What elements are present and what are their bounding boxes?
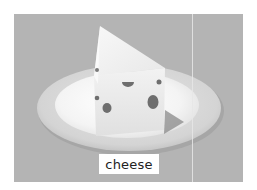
flashcard: cheese: [14, 14, 243, 182]
word-label: cheese: [99, 154, 159, 174]
divider-line: [192, 14, 193, 182]
cheese-hole: [95, 96, 100, 101]
cheese-hole: [103, 103, 112, 113]
cheese-hole: [157, 80, 162, 85]
cheese-hole: [148, 95, 159, 109]
cheese-top-face: [94, 26, 165, 76]
cheese-hole: [95, 68, 99, 72]
word-label-text: cheese: [105, 157, 152, 172]
